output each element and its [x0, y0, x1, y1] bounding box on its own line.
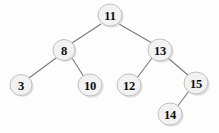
tree-node-10[interactable]: 10 — [78, 74, 104, 98]
tree-edge-n15-n14 — [177, 91, 189, 107]
binary-search-tree-figure: 11813310121514 — [0, 0, 219, 133]
node-label: 15 — [190, 77, 202, 91]
tree-edge-n8-n3 — [29, 58, 56, 78]
edges-group — [29, 24, 189, 107]
tree-node-12[interactable]: 12 — [117, 74, 143, 98]
tree-edge-n8-n10 — [72, 58, 84, 77]
node-label: 8 — [61, 44, 67, 58]
node-label: 13 — [154, 44, 166, 58]
tree-edge-n13-n15 — [168, 58, 189, 76]
nodes-group: 11813310121514 — [10, 4, 210, 127]
node-label: 14 — [164, 108, 177, 122]
tree-canvas: 11813310121514 — [0, 0, 219, 133]
tree-edge-n11-n8 — [72, 24, 101, 43]
tree-edge-n13-n12 — [137, 58, 152, 78]
tree-node-11[interactable]: 11 — [98, 4, 124, 28]
tree-node-14[interactable]: 14 — [158, 103, 184, 127]
node-label: 11 — [104, 9, 115, 23]
node-label: 12 — [123, 79, 135, 93]
node-label: 10 — [84, 79, 96, 93]
tree-edge-n11-n13 — [119, 24, 152, 43]
node-label: 3 — [18, 79, 24, 93]
